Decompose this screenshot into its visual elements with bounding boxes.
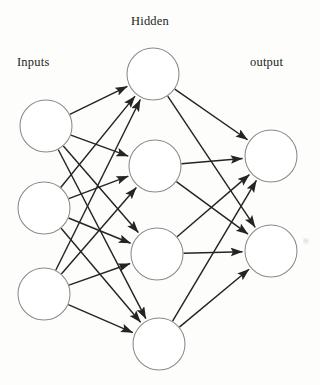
edges-hidden-to-output (168, 89, 257, 327)
neuron-node-o2 (245, 225, 297, 277)
connection-edge (175, 89, 248, 140)
scan-artifact-speck (303, 238, 310, 245)
connection-edge (70, 86, 128, 114)
neuron-node-h1 (127, 48, 179, 100)
connection-edge (173, 180, 257, 321)
neuron-node-i1 (20, 100, 72, 152)
neuron-node-i2 (18, 182, 70, 234)
layer-label-hidden: Hidden (131, 14, 169, 29)
connection-edge (61, 96, 135, 187)
neural-network-diagram: Inputs Hidden output (0, 0, 320, 385)
layer-label-inputs: Inputs (17, 55, 49, 70)
layer-label-output: output (250, 55, 283, 70)
neuron-node-h3 (131, 228, 183, 280)
connection-edge (176, 182, 248, 234)
connection-edge (61, 188, 136, 274)
neuron-node-h4 (133, 318, 185, 370)
connection-edge (69, 264, 130, 286)
neuron-node-o1 (245, 130, 297, 182)
connection-edge (179, 269, 249, 327)
connection-edge (71, 135, 128, 156)
connection-edge (68, 305, 133, 333)
connection-edge (63, 146, 138, 232)
neuron-node-h2 (129, 140, 181, 192)
neuron-node-i3 (18, 268, 70, 320)
network-nodes (18, 48, 297, 370)
